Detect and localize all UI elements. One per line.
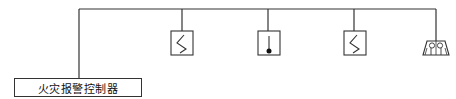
smoke-detector-icon bbox=[344, 9, 366, 55]
smoke-detector-icon bbox=[171, 9, 193, 55]
heat-detector-icon bbox=[258, 9, 280, 55]
alarm-sounder-icon bbox=[423, 9, 449, 55]
fire-alarm-controller-box: 火灾报警控制器 bbox=[14, 78, 142, 97]
fire-alarm-controller-label: 火灾报警控制器 bbox=[38, 80, 119, 96]
